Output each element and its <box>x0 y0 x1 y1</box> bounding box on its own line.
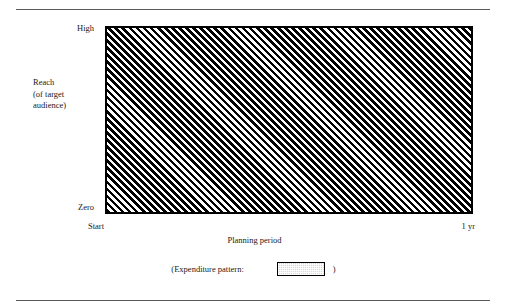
y-axis-tick-label-high: High <box>77 23 94 34</box>
legend-label-text: (Expenditure pattern: <box>171 264 243 274</box>
y-axis-title: Reach (of target audience) <box>33 77 103 112</box>
y-axis-title-line-1: Reach <box>33 77 103 89</box>
y-axis-tick-label-zero: Zero <box>78 202 94 213</box>
x-axis-tick-label-start: Start <box>88 221 104 232</box>
top-divider-rule <box>16 9 490 10</box>
legend-closing-paren: ) <box>333 264 336 274</box>
x-axis-title: Planning period <box>0 235 507 246</box>
figure-container: High Zero Reach (of target audience) Sta… <box>0 0 507 307</box>
y-axis-title-line-2: (of target <box>33 89 103 101</box>
legend: (Expenditure pattern: ) <box>0 262 507 276</box>
bottom-divider-rule <box>16 300 490 301</box>
y-axis-title-line-3: audience) <box>33 100 103 112</box>
expenditure-pattern-swatch <box>277 262 325 276</box>
x-axis-tick-label-one-year: 1 yr <box>462 221 475 232</box>
plot-area-hatched-region <box>105 26 473 214</box>
